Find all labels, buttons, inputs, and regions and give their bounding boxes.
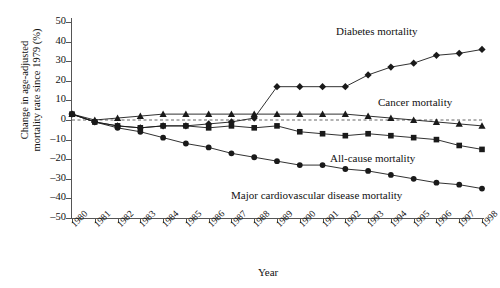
data-point-square: [479, 147, 485, 153]
data-point-square: [411, 135, 417, 141]
data-point-square: [388, 133, 394, 139]
data-point-diamond: [319, 83, 326, 90]
data-point-circle: [274, 158, 280, 164]
data-point-diamond: [273, 83, 280, 90]
data-point-square: [183, 123, 189, 129]
data-point-diamond: [456, 50, 463, 57]
data-point-square: [160, 123, 166, 129]
data-point-square: [365, 131, 371, 137]
series-line: [72, 114, 482, 149]
data-point-circle: [434, 180, 440, 186]
data-point-square: [206, 125, 212, 131]
series-label-all-cause: All-cause mortality: [330, 152, 415, 164]
data-point-circle: [297, 162, 303, 168]
series-3: [69, 111, 485, 152]
data-point-circle: [229, 150, 235, 156]
data-point-circle: [479, 186, 485, 192]
data-point-diamond: [296, 83, 303, 90]
series-label-cardiovascular: Major cardiovascular disease mortality: [231, 189, 402, 201]
data-point-square: [274, 123, 280, 129]
data-point-square: [434, 137, 440, 143]
data-point-square: [456, 143, 462, 149]
data-point-diamond: [365, 71, 372, 78]
data-point-circle: [69, 111, 75, 117]
data-point-circle: [342, 166, 348, 172]
data-point-circle: [206, 145, 212, 151]
data-point-square: [229, 123, 235, 129]
series-label-diabetes: Diabetes mortality: [336, 25, 418, 37]
data-point-square: [251, 125, 257, 131]
series-1: [68, 46, 485, 132]
data-point-square: [343, 133, 349, 139]
data-point-circle: [388, 172, 394, 178]
data-point-circle: [183, 141, 189, 147]
data-point-circle: [92, 119, 98, 125]
series-label-cancer: Cancer mortality: [378, 96, 452, 108]
data-point-diamond: [342, 83, 349, 90]
data-point-diamond: [433, 52, 440, 59]
data-point-circle: [137, 129, 143, 135]
data-point-circle: [251, 154, 257, 160]
data-point-circle: [115, 125, 121, 131]
data-point-square: [320, 131, 326, 137]
data-point-circle: [320, 162, 326, 168]
data-point-diamond: [478, 46, 485, 53]
data-point-square: [297, 129, 303, 135]
data-point-diamond: [410, 60, 417, 67]
data-point-circle: [160, 135, 166, 141]
data-point-circle: [365, 168, 371, 174]
data-point-diamond: [387, 63, 394, 70]
data-point-circle: [456, 182, 462, 188]
data-point-circle: [411, 176, 417, 182]
